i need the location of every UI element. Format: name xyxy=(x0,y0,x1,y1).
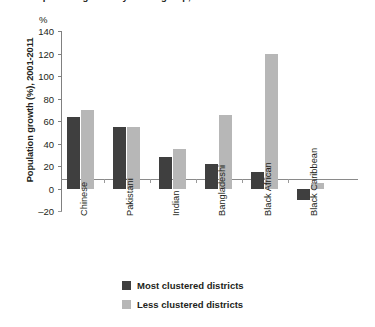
y-tick xyxy=(58,166,62,167)
legend-item-less-clustered: Less clustered districts xyxy=(122,299,244,310)
y-axis-unit-label: % xyxy=(39,14,47,25)
y-tick-label: 60 xyxy=(43,116,54,127)
x-axis-label-pakistani: Pakistani xyxy=(125,178,135,216)
y-tick xyxy=(58,76,62,77)
y-tick xyxy=(58,54,62,55)
x-tick xyxy=(196,179,197,183)
y-tick xyxy=(58,121,62,122)
legend-item-most-clustered: Most clustered districts xyxy=(122,280,244,291)
x-axis-label-bangladeshi: Bangladeshi xyxy=(217,165,227,216)
y-tick xyxy=(58,31,62,32)
y-tick-label: 20 xyxy=(43,161,54,172)
y-tick-label: 0 xyxy=(49,183,54,194)
y-tick xyxy=(58,99,62,100)
x-tick xyxy=(288,179,289,183)
y-tick-label: 140 xyxy=(38,26,54,37)
bar-most-clustered xyxy=(67,117,80,189)
x-axis-label-black-african: Black African xyxy=(263,162,273,216)
y-tick-label: 100 xyxy=(38,71,54,82)
x-axis-label-chinese: Chinese xyxy=(79,182,89,216)
y-axis-lower-spur xyxy=(61,189,62,212)
legend-label: Most clustered districts xyxy=(137,280,244,291)
y-tick xyxy=(58,144,62,145)
figure-title-text: Population growth by ethnic group, most … xyxy=(0,0,375,3)
legend-swatch-icon xyxy=(122,281,131,290)
y-tick-label: 120 xyxy=(38,48,54,59)
bar-most-clustered xyxy=(159,157,172,189)
x-axis-label-black-caribbean: Black Caribbean xyxy=(309,148,319,216)
x-tick xyxy=(104,179,105,183)
y-tick-label: 80 xyxy=(43,93,54,104)
legend: Most clustered districts Less clustered … xyxy=(122,280,244,318)
x-tick xyxy=(242,179,243,183)
y-axis-title: Population growth (%), 2001-2011 xyxy=(25,20,35,200)
legend-label: Less clustered districts xyxy=(137,299,243,310)
figure-title-clipped: Population growth by ethnic group, most … xyxy=(0,0,375,5)
x-tick xyxy=(150,179,151,183)
y-axis-end-tick xyxy=(58,211,62,212)
y-tick-label: –20 xyxy=(38,206,54,217)
x-axis-label-indian: Indian xyxy=(171,191,181,216)
y-tick-label: 40 xyxy=(43,138,54,149)
legend-swatch-icon xyxy=(122,300,131,309)
bar-less-clustered xyxy=(81,110,94,189)
bar-less-clustered xyxy=(173,149,186,188)
